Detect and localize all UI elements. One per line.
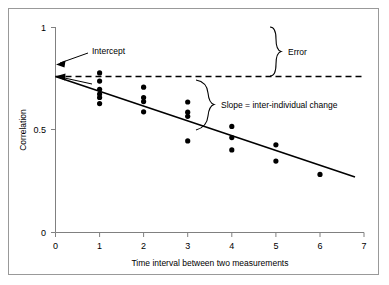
scatter-chart: 1 0.5 0 0 1 2 3 4 5 6 7 Time interval be…: [0, 0, 389, 285]
x-tick-label-2: 2: [141, 241, 146, 251]
data-point: [141, 85, 146, 90]
y-axis-title: Correlation: [18, 109, 28, 151]
data-point: [317, 172, 322, 177]
data-point: [141, 99, 146, 104]
data-point: [229, 147, 234, 152]
data-point: [97, 79, 102, 84]
error-annotation-label: Error: [288, 47, 307, 57]
data-point: [185, 138, 190, 143]
error-brace: [270, 27, 281, 76]
x-tick-label-5: 5: [273, 241, 278, 251]
y-tick-label-0-5: 0.5: [33, 125, 46, 135]
intercept-arrow: [56, 53, 92, 84]
x-tick-label-0: 0: [53, 241, 58, 251]
x-tick-label-6: 6: [317, 241, 322, 251]
data-point: [273, 159, 278, 164]
data-point: [97, 87, 102, 92]
y-tick-label-1: 1: [41, 23, 46, 33]
slope-brace: [196, 80, 214, 130]
x-tick-label-4: 4: [229, 241, 234, 251]
data-point: [97, 101, 102, 106]
y-tick-label-0: 0: [41, 228, 46, 238]
x-tick-label-1: 1: [97, 241, 102, 251]
data-point: [97, 95, 102, 100]
data-point: [273, 142, 278, 147]
data-point: [229, 135, 234, 140]
data-point: [229, 124, 234, 129]
data-point: [185, 99, 190, 104]
data-point: [185, 114, 190, 119]
x-tick-label-3: 3: [185, 241, 190, 251]
intercept-annotation-label: Intercept: [92, 46, 126, 56]
figure-container: 1 0.5 0 0 1 2 3 4 5 6 7 Time interval be…: [0, 0, 389, 285]
slope-annotation-label: Slope = inter-individual change: [221, 100, 338, 110]
data-point: [141, 109, 146, 114]
data-point: [97, 70, 102, 75]
x-axis-title: Time interval between two measurements: [131, 258, 288, 268]
x-tick-label-7: 7: [361, 241, 366, 251]
data-points-group: [97, 70, 323, 177]
